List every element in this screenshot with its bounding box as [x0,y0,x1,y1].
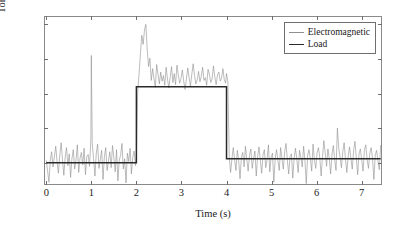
y-tick-mark [44,59,48,60]
x-tick-label: 0 [44,188,49,199]
x-tick-mark [362,181,363,185]
x-tick-mark-top [362,16,363,20]
figure: Torque (N·m) 05101520 01234567 Electroma… [0,0,398,232]
x-tick-mark [227,181,228,185]
legend-label-load: Load [308,39,328,50]
x-tick-mark [91,181,92,185]
x-tick-label: 6 [314,188,319,199]
x-tick-mark-top [317,16,318,20]
y-tick-mark [44,24,48,25]
x-tick-mark-top [136,16,137,20]
x-tick-mark-top [46,16,47,20]
x-tick-mark [317,181,318,185]
y-axis-label: Torque (N·m) [0,0,7,44]
legend-swatch-electromagnetic [289,32,304,33]
y-tick-mark [44,94,48,95]
x-tick-mark-top [227,16,228,20]
x-tick-label: 5 [269,188,274,199]
y-tick-mark-right [378,24,382,25]
y-tick-mark [44,163,48,164]
x-tick-label: 7 [359,188,364,199]
x-tick-mark [181,181,182,185]
x-axis-label: Time (s) [44,208,382,219]
legend: Electromagnetic Load [284,22,376,54]
legend-item-load: Load [289,38,370,50]
x-tick-label: 1 [89,188,94,199]
y-tick-mark-right [378,59,382,60]
x-tick-mark [272,181,273,185]
x-tick-mark-top [181,16,182,20]
plot-area: 05101520 01234567 Electromagnetic Load T… [44,16,382,185]
x-tick-mark-top [272,16,273,20]
x-tick-mark [46,181,47,185]
y-axis-label-text: Torque (N·m) [0,0,7,44]
legend-swatch-load [289,44,304,45]
x-axis-label-text: Time (s) [195,208,231,219]
x-tick-label: 2 [134,188,139,199]
y-tick-mark-right [378,163,382,164]
x-tick-label: 3 [179,188,184,199]
x-tick-mark-top [91,16,92,20]
y-tick-mark [44,128,48,129]
y-tick-mark-right [378,94,382,95]
x-tick-mark [136,181,137,185]
x-tick-label: 4 [224,188,229,199]
y-tick-mark-right [378,128,382,129]
legend-item-electromagnetic: Electromagnetic [289,26,370,38]
legend-label-electromagnetic: Electromagnetic [308,27,370,38]
